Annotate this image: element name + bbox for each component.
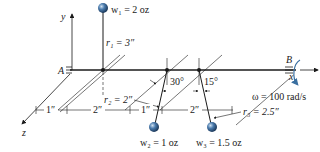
dimension-4: 2″ [190, 104, 199, 115]
angle-2-arrow [150, 80, 156, 84]
support-a [66, 67, 72, 73]
support-a-label: A [57, 65, 65, 76]
support-b-label: B [286, 54, 292, 65]
mass-1 [98, 3, 108, 13]
angle-3-label: 15° [204, 76, 218, 87]
mass-2-label: w₂ = 1 oz [140, 137, 179, 148]
angle-2-label: 30° [170, 76, 184, 87]
omega-rotation-arrow [294, 60, 300, 84]
dimension-2: 2″ [93, 104, 102, 115]
mass-3 [207, 122, 217, 132]
radius-1-label: r₁ = 3″ [106, 37, 135, 48]
junction-1 [101, 68, 105, 72]
radius-2-label: r₂ = 2″ [104, 94, 133, 105]
z-axis [22, 74, 70, 124]
shaft-diagram: y z x A B ω = 100 rad/s w₁ = 2 oz r₁ = 3… [0, 0, 320, 152]
radius-3-label: r₃ = 2.5″ [243, 106, 280, 117]
dimension-3: 1″ [141, 104, 150, 115]
radius-3-leader [214, 112, 241, 118]
z-axis-label: z [21, 127, 26, 138]
angular-velocity-label: ω = 100 rad/s [252, 91, 306, 102]
rod-2 [155, 70, 167, 124]
dimension-1: 1″ [46, 104, 55, 115]
mass-2 [149, 122, 159, 132]
y-axis-label: y [60, 11, 66, 22]
mass-3-label: w₃ = 1.5 oz [196, 137, 242, 148]
mass-1-label: w₁ = 2 oz [111, 4, 150, 15]
